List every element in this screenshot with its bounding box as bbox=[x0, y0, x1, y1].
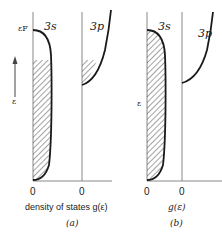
label-3s-a: 3s bbox=[44, 21, 57, 32]
zero-right-a: 0 bbox=[79, 187, 85, 197]
curve-3p-b bbox=[182, 12, 213, 83]
zero-left-a: 0 bbox=[30, 187, 36, 197]
energy-label-b: ε bbox=[137, 100, 141, 108]
panel-a bbox=[13, 10, 113, 181]
xlabel-a: density of states g(ε) bbox=[25, 203, 108, 212]
zero-left-b: 0 bbox=[144, 187, 150, 197]
energy-label-a: ε bbox=[12, 98, 16, 106]
occupied-3s-b bbox=[147, 30, 166, 180]
arrow-head-icon bbox=[13, 56, 18, 64]
zero-right-b: 0 bbox=[179, 187, 185, 197]
label-3s-b: 3s bbox=[158, 21, 171, 32]
caption-b: (b) bbox=[170, 219, 183, 228]
fermi-energy-label: εF bbox=[18, 25, 28, 33]
xlabel-b: g(ε) bbox=[168, 203, 186, 212]
label-3p-a: 3p bbox=[90, 21, 104, 32]
label-3p-b: 3p bbox=[198, 28, 212, 39]
caption-a: (a) bbox=[66, 219, 78, 228]
